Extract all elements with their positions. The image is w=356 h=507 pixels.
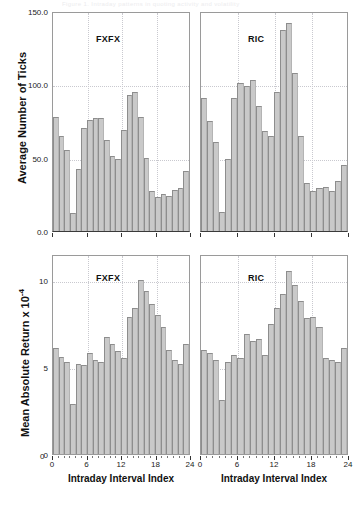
series-label: RIC: [248, 34, 264, 44]
x-minor-tick: [225, 456, 226, 458]
x-minor-tick: [286, 456, 287, 458]
x-tick-label: 18: [307, 460, 316, 469]
x-tick-label: 6: [84, 460, 88, 469]
x-minor-tick: [243, 456, 244, 458]
x-tick-label: 24: [186, 460, 195, 469]
bar: [183, 171, 189, 231]
y-axis-ticks-bottom: 0510: [0, 255, 48, 455]
y-tick-label: 50.0: [14, 154, 48, 163]
x-axis-title: Intraday Interval Index: [200, 473, 348, 484]
x-minor-tick: [317, 456, 318, 458]
y-tick-label: 150.0: [14, 8, 48, 17]
x-minor-tick: [110, 456, 111, 458]
x-minor-tick: [342, 456, 343, 458]
plot-area: [200, 12, 348, 232]
x-minor-tick: [138, 456, 139, 458]
figure-panel-grid: Figure 1. Intraday patterns in quoting a…: [0, 0, 356, 507]
x-minor-tick: [173, 456, 174, 458]
figure-header-strip: Figure 1. Intraday patterns in quoting a…: [62, 1, 298, 9]
y-axis-ticks-top: 0.050.0100.0150.0: [0, 12, 48, 232]
y-tick-label: 100.0: [14, 81, 48, 90]
x-minor-tick: [212, 456, 213, 458]
x-minor-tick: [249, 456, 250, 458]
x-tick-label: 12: [117, 460, 126, 469]
x-minor-tick: [330, 456, 331, 458]
x-axis: [200, 233, 348, 253]
x-minor-tick: [206, 456, 207, 458]
x-major-tick: [348, 233, 349, 237]
x-minor-tick: [115, 456, 116, 458]
x-minor-tick: [280, 456, 281, 458]
x-major-tick: [237, 233, 238, 237]
x-minor-tick: [167, 456, 168, 458]
chart-row-ticks: Average Number of Ticks 0.050.0100.0150.…: [0, 12, 356, 240]
x-minor-tick: [161, 456, 162, 458]
x-minor-tick: [150, 456, 151, 458]
bar-series: [53, 13, 189, 231]
series-label: FXFX: [96, 34, 120, 44]
x-major-tick: [121, 233, 122, 237]
series-label: RIC: [248, 273, 264, 283]
x-axis: 06121824Intraday Interval Index0: [52, 456, 190, 476]
plot-area: [200, 255, 348, 455]
x-minor-tick: [305, 456, 306, 458]
x-minor-tick: [127, 456, 128, 458]
x-minor-tick: [256, 456, 257, 458]
x-major-tick: [52, 233, 53, 237]
x-minor-tick: [144, 456, 145, 458]
panel-ticks-fxfx: FXFX: [52, 12, 190, 240]
panel-ticks-ric: RIC: [200, 12, 348, 240]
bar: [341, 165, 347, 231]
x-major-tick: [190, 233, 191, 237]
bar-series: [201, 256, 347, 454]
x-minor-tick: [133, 456, 134, 458]
x-axis-title: Intraday Interval Index: [52, 473, 190, 484]
bar: [341, 348, 347, 454]
x-minor-tick: [293, 456, 294, 458]
x-minor-tick: [219, 456, 220, 458]
y-tick-label: 10: [14, 277, 48, 286]
chart-row-mean-abs-return: Mean Absolute Return x 10-4 0510 FXFX061…: [0, 255, 356, 495]
x-minor-tick: [262, 456, 263, 458]
x-minor-tick: [69, 456, 70, 458]
x-tick-label: 6: [235, 460, 239, 469]
bar: [183, 344, 189, 454]
x-minor-tick: [231, 456, 232, 458]
x-minor-tick: [75, 456, 76, 458]
x-axis: [52, 233, 190, 253]
x-minor-tick: [179, 456, 180, 458]
panel-mar-ric: RIC06121824Intraday Interval Index: [200, 255, 348, 495]
plot-area: [52, 12, 190, 232]
x-minor-tick: [104, 456, 105, 458]
x-minor-tick: [64, 456, 65, 458]
x-minor-tick: [336, 456, 337, 458]
panel-mar-fxfx: FXFX06121824Intraday Interval Index0: [52, 255, 190, 495]
series-label: FXFX: [96, 273, 120, 283]
x-minor-tick: [58, 456, 59, 458]
x-tick-label: 18: [151, 460, 160, 469]
x-major-tick: [274, 233, 275, 237]
x-major-tick: [156, 233, 157, 237]
x-minor-tick: [98, 456, 99, 458]
x-minor-tick: [184, 456, 185, 458]
y-tick-label: 5: [14, 364, 48, 373]
x-major-tick: [200, 233, 201, 237]
x-minor-tick: [268, 456, 269, 458]
plot-area: [52, 255, 190, 455]
bar-series: [201, 13, 347, 231]
x-minor-tick: [81, 456, 82, 458]
x-tick-label: 0: [50, 460, 54, 469]
bar-series: [53, 256, 189, 454]
x-minor-tick: [299, 456, 300, 458]
x-major-tick: [87, 233, 88, 237]
x-tick-label: 0: [198, 460, 202, 469]
x-axis: 06121824Intraday Interval Index: [200, 456, 348, 476]
x-tick-label: 12: [270, 460, 279, 469]
x-tick-label: 24: [344, 460, 353, 469]
x-major-tick: [311, 233, 312, 237]
y-tick-label: 0.0: [14, 228, 48, 237]
x-minor-tick: [323, 456, 324, 458]
x-minor-tick: [92, 456, 93, 458]
y-zero-label: 0: [40, 452, 44, 461]
